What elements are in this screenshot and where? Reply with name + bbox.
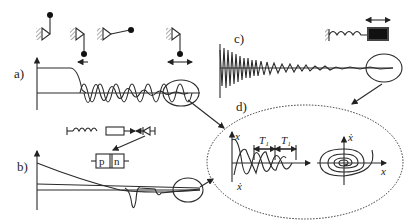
panel-c: c) (220, 20, 402, 98)
pendulum-down-left (70, 28, 88, 62)
period-label-1: T₁ (259, 134, 269, 146)
panel-c-label: c) (234, 31, 244, 46)
zoom-ellipse-d (207, 105, 403, 219)
oscillation-diagram: a) b) p n (0, 0, 405, 222)
pendulum-sequence (36, 12, 192, 62)
pendulum-horizontal (97, 27, 134, 40)
panel-a-label: a) (14, 66, 24, 81)
panel-d: d) x ẋ T₁ T₁ ẋ x (207, 99, 403, 219)
panel-d-label: d) (236, 99, 247, 114)
phase-x-label: x (380, 165, 386, 177)
period-label-2: T₁ (281, 134, 291, 146)
panel-a: a) (14, 58, 200, 110)
pendulum-up (36, 12, 53, 40)
circuit-schematic: p n (67, 127, 155, 168)
panel-b: b) p n (17, 127, 203, 210)
pendulum-oscillating (166, 28, 192, 62)
phase-xdot-label: ẋ (347, 131, 353, 143)
n-label: n (114, 155, 120, 167)
xdot-axis-label: ẋ (236, 180, 242, 192)
p-label: p (99, 155, 105, 167)
panel-b-label: b) (17, 159, 28, 174)
